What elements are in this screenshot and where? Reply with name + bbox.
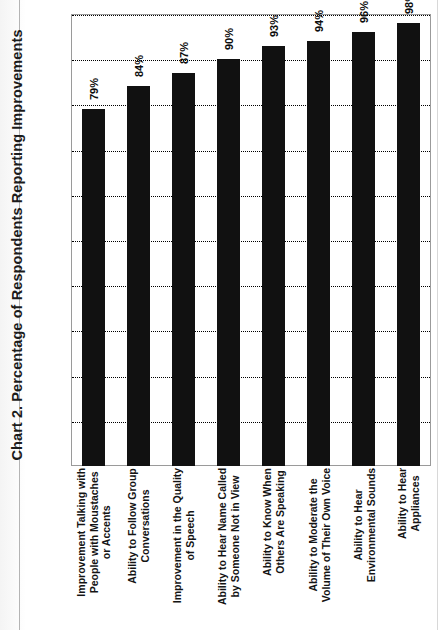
- scanned-page: Chart 2. Percentage of Respondents Repor…: [0, 0, 446, 630]
- bar-value-label: 84%: [133, 55, 145, 77]
- category-label: Ability to HearAppliances: [386, 468, 431, 626]
- bar[interactable]: [127, 86, 150, 466]
- page-edge-rule-right: [437, 0, 438, 630]
- category-label-text: Ability to HearAppliances: [396, 468, 421, 539]
- bar-slot: 84%: [116, 14, 161, 466]
- bar-series: 79%84%87%90%93%94%96%98%: [71, 14, 431, 466]
- category-label-text: Ability to Know WhenOthers Are Speaking: [261, 468, 286, 576]
- bar-slot: 93%: [251, 14, 296, 466]
- bar[interactable]: [262, 46, 285, 466]
- bar-value-label: 90%: [223, 28, 235, 50]
- bar[interactable]: [307, 41, 330, 466]
- bar-value-label: 98%: [403, 0, 415, 14]
- category-label: Ability to Moderate theVolume of Their O…: [296, 468, 341, 626]
- bar-slot: 87%: [161, 14, 206, 466]
- category-label-text: Improvement in the Qualityof Speech: [171, 468, 196, 603]
- category-label: Ability to Know WhenOthers Are Speaking: [251, 468, 296, 626]
- bar[interactable]: [172, 73, 195, 466]
- bar-slot: 94%: [296, 14, 341, 466]
- category-label: Ability to Follow GroupConversations: [116, 468, 161, 626]
- bar-slot: 96%: [341, 14, 386, 466]
- category-label-text: Ability to Moderate theVolume of Their O…: [306, 468, 331, 602]
- category-label-text: Ability to Follow GroupConversations: [126, 468, 151, 584]
- category-label: Ability to Hear Name Calledby Someone No…: [206, 468, 251, 626]
- bar-slot: 98%: [386, 14, 431, 466]
- category-label: Improvement Talking withPeople with Mous…: [71, 468, 116, 626]
- category-label-text: Ability to HearEnvironmental Sounds: [351, 468, 376, 582]
- chart-title-text: Chart 2. Percentage of Respondents Repor…: [9, 29, 25, 460]
- bar[interactable]: [217, 59, 240, 466]
- category-label: Improvement in the Qualityof Speech: [161, 468, 206, 626]
- bar[interactable]: [352, 32, 375, 466]
- bar-slot: 90%: [206, 14, 251, 466]
- bar[interactable]: [82, 109, 105, 466]
- category-label-text: Improvement Talking withPeople with Mous…: [75, 468, 113, 597]
- category-axis-labels: Improvement Talking withPeople with Mous…: [71, 468, 431, 630]
- bar-value-label: 96%: [358, 1, 370, 23]
- bar-slot: 79%: [71, 14, 116, 466]
- bar[interactable]: [397, 23, 420, 466]
- bar-value-label: 94%: [313, 10, 325, 32]
- bar-value-label: 87%: [178, 42, 190, 64]
- chart-title: Chart 2. Percentage of Respondents Repor…: [0, 0, 34, 470]
- bar-value-label: 79%: [88, 78, 100, 100]
- category-label-text: Ability to Hear Name Calledby Someone No…: [216, 468, 241, 605]
- category-label: Ability to HearEnvironmental Sounds: [341, 468, 386, 626]
- bar-value-label: 93%: [268, 15, 280, 37]
